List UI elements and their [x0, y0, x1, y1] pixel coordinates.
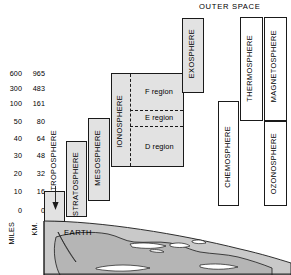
outer-space-label: OUTER SPACE	[199, 2, 261, 11]
atmosphere-diagram: OUTER SPACE 600 300 100 50 40 30 20 10 0…	[0, 0, 291, 275]
tick-km-48: 48	[25, 152, 45, 159]
earth-sea-3	[192, 240, 206, 244]
layer-label-troposphere: TROPOSPHERE	[50, 130, 57, 191]
earth-sea-4	[150, 250, 164, 253]
tick-km-965: 965	[25, 70, 45, 77]
tick-miles-50: 50	[2, 118, 22, 125]
earth-sea-1	[130, 243, 166, 248]
ionosphere-vertical-divider	[130, 74, 131, 166]
tick-km-483: 483	[25, 85, 45, 92]
tick-miles-30: 30	[2, 152, 22, 159]
troposphere-arrow-icon	[50, 186, 61, 212]
layer-label-chemosphere: CHEMOSPHERE	[224, 126, 231, 188]
layer-label-exosphere: EXOSPHERE	[188, 29, 195, 78]
layer-label-mesosphere: MESOSPHERE	[94, 130, 101, 186]
tick-miles-600: 600	[2, 70, 22, 77]
ionosphere-region-d: D region	[145, 142, 174, 151]
tick-km-0: 0	[25, 207, 45, 214]
axis-label-miles: MILES	[8, 222, 15, 245]
layer-label-ozonosphere: OZONOSPHERE	[270, 133, 277, 194]
layer-label-ionosphere: IONOSPHERE	[116, 95, 123, 148]
ionosphere-divider-f-e	[130, 110, 183, 111]
tick-miles-10: 10	[2, 188, 22, 195]
tick-miles-300: 300	[2, 85, 22, 92]
tick-km-80: 80	[25, 118, 45, 125]
tick-km-161: 161	[25, 100, 45, 107]
layer-label-thermosphere: THERMOSPHERE	[246, 35, 253, 102]
earth-landmass-main	[54, 232, 272, 275]
ionosphere-region-e: E region	[145, 113, 173, 122]
tick-miles-100: 100	[2, 100, 22, 107]
ionosphere-divider-e-d	[130, 126, 183, 127]
earth-sea-2	[170, 243, 190, 248]
tick-miles-40: 40	[2, 135, 22, 142]
layer-label-stratosphere: STRATOSPHERE	[72, 152, 79, 216]
earth-inlet-2	[200, 264, 238, 269]
axis-label-km: KM.	[31, 222, 38, 235]
layer-label-magnetosphere: MAGNETOSPHERE	[270, 30, 277, 102]
earth-label: EARTH	[64, 229, 92, 237]
tick-km-16: 16	[25, 188, 45, 195]
tick-miles-0: 0	[2, 207, 22, 214]
ionosphere-region-f: F region	[145, 87, 173, 96]
tick-miles-20: 20	[2, 170, 22, 177]
tick-km-64: 64	[25, 135, 45, 142]
tick-km-32: 32	[25, 170, 45, 177]
earth-inlet	[96, 265, 150, 271]
